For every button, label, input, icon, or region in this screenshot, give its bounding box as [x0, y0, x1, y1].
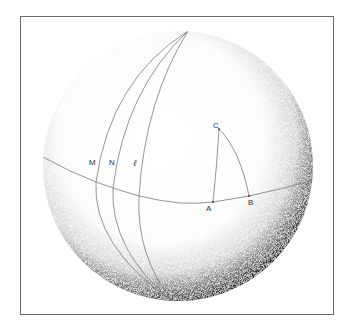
- label-m: M: [89, 158, 96, 167]
- label-a: A: [206, 204, 212, 213]
- label-l: ℓ: [133, 158, 137, 168]
- label-c: C: [213, 121, 219, 130]
- label-b: B: [248, 198, 253, 207]
- point-b: [248, 195, 250, 197]
- sphere: [43, 31, 313, 301]
- point-a: [212, 201, 214, 203]
- label-n: N: [109, 158, 115, 167]
- sphere-diagram: M N ℓ C A B: [0, 0, 354, 331]
